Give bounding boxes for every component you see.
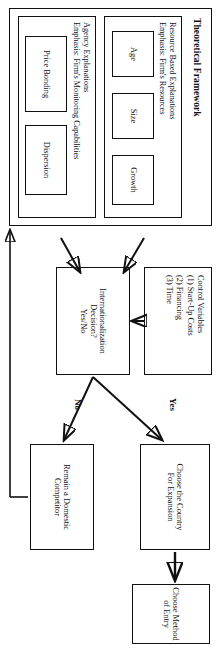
connector-layer bbox=[0, 0, 224, 655]
arrow-resource-to-decision bbox=[124, 238, 144, 272]
arrow-decision-yes bbox=[93, 377, 162, 440]
arrow-agency-to-decision bbox=[61, 238, 80, 272]
diagram-canvas: Theoretical Framework Resource Based Exp… bbox=[0, 0, 224, 655]
arrow-decision-no bbox=[64, 377, 93, 440]
